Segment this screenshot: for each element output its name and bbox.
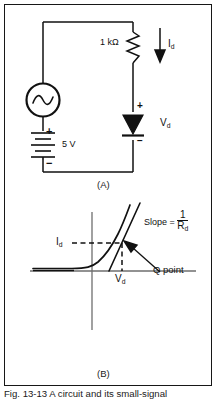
current-label-sub: d bbox=[171, 43, 175, 50]
graph-id-label: Id bbox=[56, 237, 63, 248]
slope-denominator: Rd bbox=[177, 220, 188, 232]
q-point-label: Q point bbox=[153, 265, 184, 275]
diode-plus-sign: + bbox=[137, 101, 143, 111]
slope-denominator-sub: d bbox=[185, 225, 189, 232]
figure-root: 1 kΩ Id + 5 V − + − Vd (A) Slope = 1 Rd … bbox=[0, 0, 220, 399]
battery-icon bbox=[31, 133, 55, 160]
graph-vd-sub: d bbox=[122, 278, 126, 285]
diode-voltage-label: Vd bbox=[160, 118, 170, 129]
battery-plus-sign: + bbox=[46, 126, 52, 137]
resistor-label: 1 kΩ bbox=[100, 38, 119, 47]
diode-minus-sign: − bbox=[137, 136, 143, 146]
tangent-line bbox=[109, 203, 140, 271]
graph-vd-label: Vd bbox=[115, 274, 125, 285]
graph-id-sub: d bbox=[59, 241, 63, 248]
ac-source-icon bbox=[27, 84, 60, 117]
diode-iv-curve bbox=[33, 205, 130, 269]
slope-annotation: Slope = 1 Rd bbox=[144, 211, 188, 233]
diode-voltage-sub: d bbox=[167, 122, 171, 129]
battery-value-label: 5 V bbox=[62, 140, 76, 149]
slope-fraction: 1 Rd bbox=[177, 210, 188, 232]
panel-b-letter: (B) bbox=[97, 369, 110, 379]
figure-graphics bbox=[0, 0, 220, 399]
graph-vd-main: V bbox=[115, 273, 122, 284]
panel-a-letter: (A) bbox=[97, 180, 110, 190]
slope-numerator: 1 bbox=[177, 210, 188, 221]
figure-caption: Fig. 13-13 A circuit and its small-signa… bbox=[4, 388, 216, 399]
resistor-icon bbox=[127, 32, 139, 63]
battery-minus-sign: − bbox=[46, 158, 52, 169]
diode-voltage-main: V bbox=[160, 117, 167, 128]
diode-current-label: Id bbox=[168, 39, 175, 50]
slope-text: Slope = bbox=[144, 217, 175, 227]
slope-denominator-main: R bbox=[177, 220, 184, 231]
current-arrow-icon bbox=[155, 28, 165, 62]
diode-icon bbox=[122, 115, 144, 136]
